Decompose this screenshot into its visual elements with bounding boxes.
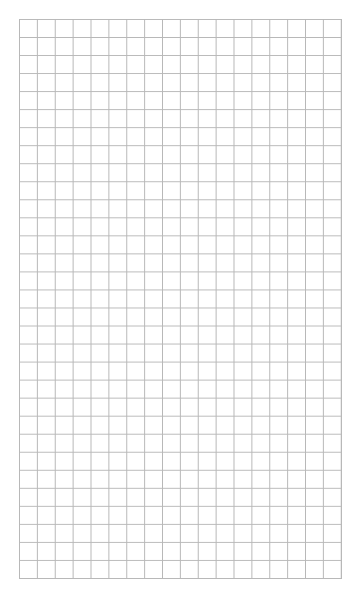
graph-paper-sheet — [0, 0, 361, 597]
square-grid — [19, 19, 342, 579]
